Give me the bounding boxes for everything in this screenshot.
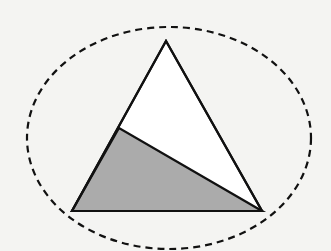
geometry-diagram	[0, 0, 331, 251]
